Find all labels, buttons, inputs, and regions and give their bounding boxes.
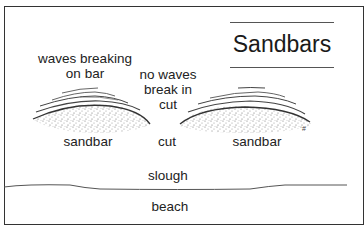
label-waves-breaking-line2: on bar: [30, 66, 140, 81]
label-no-waves-line3: cut: [130, 97, 206, 112]
label-waves-breaking-line1: waves breaking: [30, 51, 140, 66]
label-cut: cut: [147, 134, 187, 149]
svg-text:#: #: [302, 125, 306, 132]
shoreline: [4, 185, 347, 190]
label-beach: beach: [140, 199, 200, 214]
label-sandbar-right: sandbar: [222, 134, 292, 149]
label-no-waves-line1: no waves: [130, 67, 206, 82]
label-sandbar-left: sandbar: [53, 134, 123, 149]
label-slough: slough: [138, 168, 198, 183]
label-no-waves-line2: break in: [130, 82, 206, 97]
